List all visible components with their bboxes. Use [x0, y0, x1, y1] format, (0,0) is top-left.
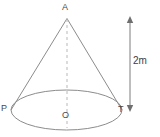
cone-left-slant — [11, 19, 67, 111]
dimension-arrowhead-top-icon — [127, 16, 133, 23]
apex-label-a: A — [62, 3, 68, 12]
dimension-arrowhead-bottom-icon — [127, 105, 133, 112]
base-center-label-o: O — [62, 111, 69, 120]
base-right-label-t: T — [118, 105, 124, 114]
cone-right-slant — [67, 19, 122, 111]
height-dimension-label: 2m — [133, 56, 147, 66]
cone-svg — [0, 0, 160, 137]
cone-diagram: A P T O 2m — [0, 0, 160, 137]
base-left-label-p: P — [1, 104, 7, 113]
